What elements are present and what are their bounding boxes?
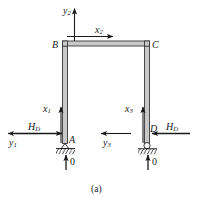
force-label-HD-right-sub: D [173, 125, 178, 132]
axis-label-y2-sub: 2 [68, 9, 71, 16]
reaction-arrows [66, 155, 148, 170]
axis-label-y1-sub: 1 [14, 141, 17, 148]
frame-structure [63, 41, 150, 144]
node-label-A: A [69, 135, 75, 145]
force-label-HD-left: HD [28, 122, 40, 133]
axis-label-x2-sub: 2 [100, 28, 103, 35]
axis-label-y1: y1 [9, 138, 17, 149]
node-label-B: B [52, 40, 58, 50]
axis-label-x2-base: x [95, 24, 99, 35]
member-left-column [63, 46, 68, 144]
force-label-HD-left-sub: D [35, 125, 40, 132]
axis-label-y3-sub: 3 [108, 141, 111, 148]
axis-label-x2: x2 [95, 25, 103, 36]
member-right-column [145, 46, 150, 144]
axis-label-y1-base: y [9, 137, 13, 148]
reaction-label-D: 0 [152, 157, 157, 167]
axis-label-y3-base: y [103, 137, 107, 148]
axis-label-y2-base: y [63, 5, 67, 16]
figure-container: B C A D y2 x2 x1 x3 y1 y3 HD HD 0 0 (a) [0, 0, 199, 203]
axis-label-x3-base: x [125, 103, 129, 114]
axis-label-x3: x3 [125, 104, 133, 115]
force-label-HD-right: HD [166, 122, 178, 133]
axis-label-x3-sub: 3 [130, 107, 133, 114]
axis-label-y2: y2 [63, 6, 71, 17]
axis-label-x1-base: x [43, 103, 47, 114]
node-label-D: D [150, 124, 157, 134]
axis-label-y3: y3 [103, 138, 111, 149]
member-top-beam [63, 41, 150, 46]
reaction-label-A: 0 [70, 157, 75, 167]
support-A [56, 144, 75, 155]
axis-label-x1: x1 [43, 104, 51, 115]
support-D [138, 143, 157, 155]
axis-label-x1-sub: 1 [48, 107, 51, 114]
node-label-C: C [152, 40, 159, 50]
figure-caption: (a) [91, 184, 102, 194]
